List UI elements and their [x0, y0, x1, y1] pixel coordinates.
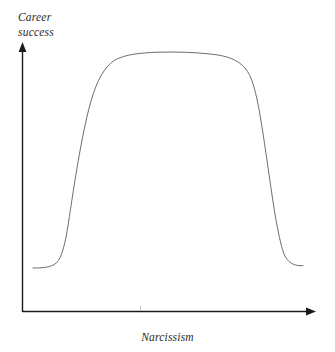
- x-axis-label: Narcissism: [0, 330, 335, 345]
- x-axis-arrow-right-icon: [306, 308, 316, 316]
- y-axis-arrow-up-icon: [19, 42, 27, 52]
- y-axis-label: Career success: [18, 10, 54, 40]
- y-axis-label-line-1: Career: [18, 11, 51, 23]
- plot-area: [0, 0, 335, 352]
- y-axis-label-line-2: success: [18, 25, 54, 40]
- figure-container: Career success Narcissism: [0, 0, 335, 352]
- data-curve-career-success: [33, 52, 303, 268]
